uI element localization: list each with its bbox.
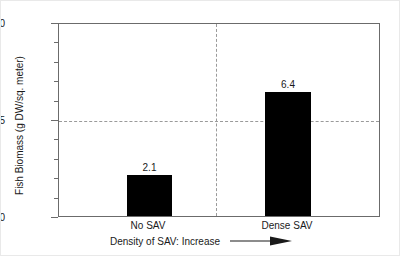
bar-value-no-sav: 2.1	[127, 162, 172, 173]
x-tick-label-no-sav: No SAV	[131, 220, 166, 231]
x-tick-label-dense-sav: Dense SAV	[262, 220, 313, 231]
bar-dense-sav	[265, 92, 311, 216]
bar-no-sav	[127, 175, 172, 216]
y-tick-label-5: 5	[0, 115, 8, 126]
right-arrow-icon	[230, 235, 292, 247]
gridline-horizontal-5	[59, 121, 379, 122]
x-axis-title-group: Density of SAV: Increase	[1, 235, 400, 247]
y-tick-label-10: 10	[0, 18, 8, 29]
y-tick-major-0	[51, 217, 58, 218]
y-tick-major-5	[51, 120, 58, 121]
y-tick-major-10	[51, 23, 58, 24]
plot-area: 2.1 6.4	[58, 23, 380, 217]
bar-value-dense-sav: 6.4	[265, 79, 311, 90]
bar-chart-figure: 0 5 10 Fish Biomass (g DW/sq. meter) 2.1…	[0, 0, 400, 256]
y-tick-label-0: 0	[0, 212, 8, 223]
gridline-vertical-separator	[216, 24, 217, 216]
y-axis-title: Fish Biomass (g DW/sq. meter)	[14, 36, 25, 216]
x-axis-title: Density of SAV: Increase	[110, 236, 220, 247]
y-axis: 0 5 10 Fish Biomass (g DW/sq. meter)	[1, 1, 58, 256]
